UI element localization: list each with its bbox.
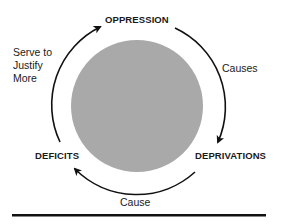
edge-label-serve-to-justify-more: Serve to Justify More — [13, 46, 52, 85]
arc-cause-arrow — [75, 169, 195, 195]
edge-label-line: Serve to — [13, 46, 52, 59]
node-oppression: OPPRESSION — [105, 14, 169, 25]
edge-label-cause: Cause — [120, 196, 150, 209]
node-deprivations: DEPRIVATIONS — [195, 150, 266, 161]
edge-label-line: Justify — [13, 59, 52, 72]
node-deficits: DEFICITS — [35, 150, 79, 161]
cycle-diagram — [0, 0, 283, 224]
edge-label-causes: Causes — [222, 62, 258, 75]
center-circle — [71, 40, 203, 172]
bottom-rule — [12, 214, 266, 217]
edge-label-line: More — [13, 72, 52, 85]
